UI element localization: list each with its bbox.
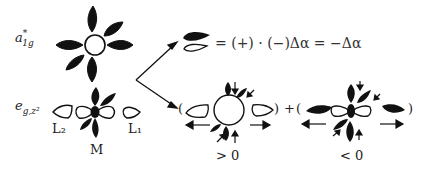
a1g-label: a*1g [15, 30, 39, 45]
eg-z2-label: eg,z² [15, 98, 40, 113]
sign-negative-label: < 0 [340, 148, 363, 163]
sign-positive-label: > 0 [216, 148, 239, 163]
a1g-star-orbital [56, 6, 133, 82]
combination-negative [302, 81, 405, 142]
paren-open-1: ( [178, 101, 183, 116]
a1g-label-sup: * [23, 28, 28, 38]
ligand-l1-label: L₁ [128, 121, 142, 136]
eg-z2-orbital [53, 87, 140, 138]
paren-close-2: ) [408, 101, 413, 116]
plus-sign: + [284, 101, 295, 116]
a1g-label-sub: 1g [22, 38, 34, 48]
overlap-equation: = (+) · (−)Δα = −Δα [215, 35, 361, 51]
eg-label-sub: g,z² [23, 106, 40, 116]
orbital-diagram: a*1g eg,z² L₂ L₁ M = (+) · (−)Δα = −Δα (… [0, 0, 425, 172]
paren-close-1: ) [274, 101, 279, 116]
paren-open-2: ( [296, 101, 301, 116]
metal-label: M [90, 142, 103, 157]
overlap-lobes [183, 32, 210, 51]
branch-arrows [136, 42, 177, 108]
ligand-l2-label: L₂ [52, 121, 66, 136]
combination-positive [186, 82, 273, 143]
diagram-graphics [0, 0, 425, 172]
eg-label-main: e [15, 98, 23, 113]
